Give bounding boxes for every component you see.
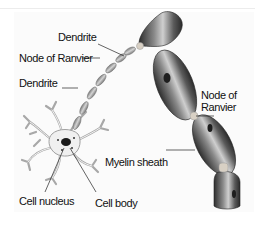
label-dendrite-left: Dendrite bbox=[19, 77, 57, 89]
label-node-of-ranvier-left: Node of Ranvier bbox=[19, 52, 93, 64]
label-cell-body: Cell body bbox=[95, 197, 137, 209]
label-myelin-sheath: Myelin sheath bbox=[105, 156, 168, 168]
nucleus-shape bbox=[61, 138, 71, 146]
label-dendrite-top: Dendrite bbox=[58, 31, 96, 43]
label-node-of-ranvier-right-1: Node of bbox=[201, 89, 237, 101]
label-node-of-ranvier-right-2: Ranvier bbox=[201, 101, 236, 113]
label-cell-nucleus: Cell nucleus bbox=[19, 195, 74, 207]
neuron-diagram bbox=[0, 0, 255, 226]
